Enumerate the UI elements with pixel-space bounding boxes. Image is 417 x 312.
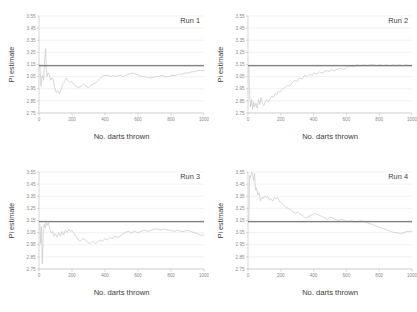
y-tick-label: 2.95 [27, 86, 36, 91]
y-tick-label: 3.55 [27, 170, 36, 175]
chart-panel-run-1: 2.752.852.953.053.153.253.353.453.550200… [0, 0, 209, 156]
y-tick-label: 3.05 [27, 230, 36, 235]
y-tick-label: 2.75 [27, 111, 36, 116]
x-tick-label: 400 [101, 117, 109, 122]
y-tick-label: 2.95 [27, 242, 36, 247]
x-tick-label: 1000 [199, 273, 209, 278]
y-axis-label: Pi estimate [216, 203, 225, 239]
x-axis-label: No. darts thrown [302, 132, 358, 141]
y-tick-label: 2.85 [236, 99, 245, 104]
pi-estimate-figure: 2.752.852.953.053.153.253.353.453.550200… [0, 0, 417, 312]
x-tick-label: 800 [167, 117, 175, 122]
y-tick-label: 3.15 [236, 218, 245, 223]
chart-panel-run-4: 2.752.852.953.053.153.253.353.453.550200… [209, 156, 417, 312]
y-tick-label: 3.15 [236, 62, 245, 67]
y-tick-label: 2.75 [236, 111, 245, 116]
y-tick-label: 3.35 [27, 38, 36, 43]
y-tick-label: 3.15 [27, 62, 36, 67]
x-tick-label: 200 [277, 117, 285, 122]
y-tick-label: 2.95 [236, 242, 245, 247]
x-tick-label: 200 [277, 273, 285, 278]
x-tick-label: 0 [247, 117, 250, 122]
y-tick-label: 3.45 [236, 182, 245, 187]
x-tick-label: 600 [134, 273, 142, 278]
y-tick-label: 3.55 [236, 170, 245, 175]
y-tick-label: 3.25 [236, 50, 245, 55]
x-axis-label: No. darts thrown [94, 288, 150, 297]
y-tick-label: 2.85 [27, 99, 36, 104]
y-tick-label: 3.55 [236, 14, 245, 19]
y-tick-label: 3.05 [236, 230, 245, 235]
y-tick-label: 3.45 [236, 26, 245, 31]
x-tick-label: 800 [375, 273, 383, 278]
x-tick-label: 600 [343, 273, 351, 278]
y-tick-label: 3.55 [27, 14, 36, 19]
y-tick-label: 2.75 [27, 267, 36, 272]
y-tick-label: 3.45 [27, 182, 36, 187]
x-axis-label: No. darts thrown [94, 132, 150, 141]
y-tick-label: 3.05 [27, 74, 36, 79]
series-line-pi-estimate [40, 223, 204, 264]
x-tick-label: 400 [310, 273, 318, 278]
x-tick-label: 400 [101, 273, 109, 278]
y-tick-label: 3.25 [236, 206, 245, 211]
y-tick-label: 2.85 [27, 255, 36, 260]
x-tick-label: 800 [167, 273, 175, 278]
y-tick-label: 3.25 [27, 50, 36, 55]
y-tick-label: 2.95 [236, 86, 245, 91]
y-axis-label: Pi estimate [7, 47, 16, 83]
y-tick-label: 3.35 [27, 194, 36, 199]
chart-panel-run-3: 2.752.852.953.053.153.253.353.453.550200… [0, 156, 209, 312]
y-axis-label: Pi estimate [216, 47, 225, 83]
x-tick-label: 1000 [407, 273, 417, 278]
y-tick-label: 3.15 [27, 218, 36, 223]
panel-title: Run 1 [180, 16, 200, 25]
y-tick-label: 3.05 [236, 74, 245, 79]
y-tick-label: 3.25 [27, 206, 36, 211]
x-tick-label: 600 [343, 117, 351, 122]
y-tick-label: 3.45 [27, 26, 36, 31]
x-tick-label: 200 [68, 117, 76, 122]
x-tick-label: 800 [375, 117, 383, 122]
x-tick-label: 200 [68, 273, 76, 278]
chart-panel-run-2: 2.752.852.953.053.153.253.353.453.550200… [209, 0, 417, 156]
panel-title: Run 3 [180, 172, 200, 181]
x-tick-label: 0 [38, 273, 41, 278]
panel-title: Run 2 [388, 16, 408, 25]
y-tick-label: 3.35 [236, 194, 245, 199]
panel-title: Run 4 [388, 172, 408, 181]
x-tick-label: 1000 [407, 117, 417, 122]
series-line-pi-estimate [249, 65, 412, 110]
x-axis-label: No. darts thrown [302, 288, 358, 297]
y-tick-label: 3.35 [236, 38, 245, 43]
series-line-pi-estimate [40, 49, 204, 94]
y-tick-label: 2.75 [236, 267, 245, 272]
x-tick-label: 0 [247, 273, 250, 278]
y-axis-label: Pi estimate [7, 203, 16, 239]
x-tick-label: 0 [38, 117, 41, 122]
x-tick-label: 400 [310, 117, 318, 122]
y-tick-label: 2.85 [236, 255, 245, 260]
series-line-pi-estimate [249, 172, 412, 234]
x-tick-label: 600 [134, 117, 142, 122]
x-tick-label: 1000 [199, 117, 209, 122]
